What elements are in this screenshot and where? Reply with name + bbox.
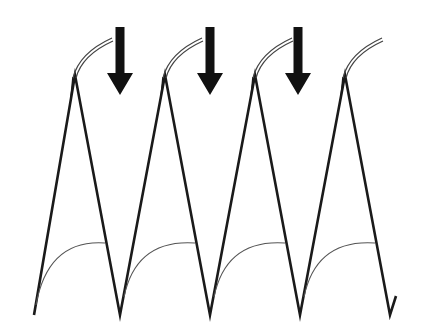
- valley-curve: [36, 243, 105, 305]
- zigzag-polyline: [34, 75, 396, 315]
- valley-curve: [304, 243, 375, 297]
- zigzag-line: [34, 75, 396, 315]
- zigzag-diagram: [0, 0, 422, 333]
- down-arrow-icon: [107, 27, 133, 95]
- down-arrow-icon: [285, 27, 311, 95]
- valley-curve: [214, 243, 285, 297]
- down-arrow-icon: [197, 27, 223, 95]
- down-arrows: [107, 27, 311, 95]
- valley-curve: [124, 243, 195, 297]
